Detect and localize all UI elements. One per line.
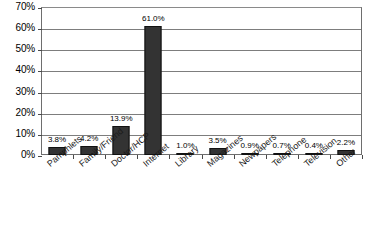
y-tick-label: 60% xyxy=(16,23,35,33)
x-tick-mark xyxy=(298,155,299,159)
bar-slot: 1.0% xyxy=(169,7,201,155)
bar-slot: 2.2% xyxy=(330,7,362,155)
x-tick-mark xyxy=(169,155,170,159)
x-tick-mark xyxy=(73,155,74,159)
bar-series: 3.8%4.2%13.9%61.0%1.0%3.5%0.9%0.7%0.4%2.… xyxy=(41,7,362,155)
bar-slot: 0.4% xyxy=(298,7,330,155)
x-axis: PamphletsFamily/FriendDoctor/HCPInternet… xyxy=(41,155,362,231)
x-tick-mark xyxy=(330,155,331,159)
y-tick-label: 10% xyxy=(16,129,35,139)
y-tick-label: 40% xyxy=(16,65,35,75)
x-tick-mark xyxy=(234,155,235,159)
y-tick-label: 70% xyxy=(16,2,35,12)
y-tick-label: 50% xyxy=(16,44,35,54)
bar-slot: 3.8% xyxy=(41,7,73,155)
bar-chart: 0%10%20%30%40%50%60%70% 3.8%4.2%13.9%61.… xyxy=(0,0,375,231)
x-tick-mark xyxy=(266,155,267,159)
y-tick-label: 30% xyxy=(16,87,35,97)
bar-value-label: 3.8% xyxy=(48,136,66,144)
y-tick-label: 0% xyxy=(21,150,35,160)
bar-slot: 3.5% xyxy=(202,7,234,155)
bar-value-label: 13.9% xyxy=(110,115,133,123)
y-axis: 0%10%20%30%40%50%60%70% xyxy=(0,0,38,231)
x-tick-mark xyxy=(202,155,203,159)
bar-value-label: 61.0% xyxy=(142,15,165,23)
bar-value-label: 2.2% xyxy=(337,139,355,147)
y-tick-label: 20% xyxy=(16,108,35,118)
x-tick-mark xyxy=(362,155,363,159)
x-tick-mark xyxy=(105,155,106,159)
x-tick-mark xyxy=(137,155,138,159)
